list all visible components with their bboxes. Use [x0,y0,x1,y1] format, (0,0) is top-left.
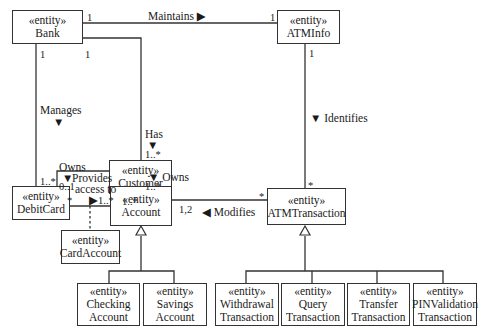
class-name-line1: Savings [157,298,193,311]
stereotype: «entity» [290,14,328,27]
identifies-mult-transaction: * [308,180,313,191]
provides-mult-debitcard: * [67,195,72,206]
has-line [83,38,141,160]
provides-direction-arrow-icon: ▶ [89,194,98,206]
stereotype: «entity» [360,285,398,298]
class-name-line1: Withdrawal [220,298,274,311]
class-name-line1: Checking [86,298,130,311]
stereotype: «entity» [228,285,266,298]
stereotype: «entity» [288,194,326,207]
identifies-label: ▼ Identifies [310,112,368,124]
class-name: ATMTransaction [267,207,345,220]
class-name-line1: Transfer [359,298,398,311]
maintains-mult-atminfo: 1 [270,12,275,23]
class-name-line2: Transaction [352,311,406,324]
account-subclass-branches [109,271,174,283]
class-atminfo: «entity» ATMInfo [277,10,340,44]
identifies-mult-atminfo: 1 [309,48,314,59]
class-cardaccount: «entity» CardAccount [61,230,120,264]
account-generalization-triangle [136,226,146,235]
owns-account-mult-account: 1..* [145,181,161,192]
class-name: Bank [35,27,59,40]
modifies-mult-transaction: * [259,191,264,202]
class-name-line2: Account [156,311,195,324]
class-account: «entity» Account [110,186,172,226]
uml-class-diagram: «entity» Bank «entity» ATMInfo «entity» … [0,0,487,335]
manages-mult-bank: 1 [40,49,45,60]
class-name: CardAccount [60,247,121,260]
transaction-subclass-branches [246,271,443,283]
class-transfer-transaction: «entity» Transfer Transaction [347,283,410,326]
manages-label: Manages [40,104,82,116]
modifies-label: ◀ Modifies [202,206,255,218]
class-atmtransaction: «entity» ATMTransaction [267,188,346,225]
stereotype: «entity» [29,14,67,27]
manages-mult-debitcard: 1..* [40,176,56,187]
has-mult-bank: 1 [85,49,90,60]
class-name: DebitCard [17,203,65,216]
maintains-mult-bank: 1 [87,12,92,23]
maintains-label: Maintains ▶ [148,10,206,22]
class-name-line2: Transaction [418,311,472,324]
stereotype: «entity» [426,285,464,298]
class-pinvalidation-transaction: «entity» PINValidation Transaction [413,283,477,326]
transaction-generalization-triangle [300,226,310,235]
stereotype: «entity» [72,234,110,247]
class-checking-account: «entity» Checking Account [77,283,140,326]
class-name-line1: Query [299,298,328,311]
owns-card-mult-customer: 1..* [122,196,138,207]
class-name-line1: PINValidation [412,298,478,311]
stereotype: «entity» [156,285,194,298]
manages-direction-arrow-icon: ▼ [53,116,64,128]
provides-mult-account: 1..* [98,195,114,206]
modifies-mult-account: 1,2 [179,204,192,215]
class-name: ATMInfo [287,27,330,40]
stereotype: «entity» [22,190,60,203]
stereotype: «entity» [90,285,128,298]
class-name-line2: Transaction [286,311,340,324]
stereotype: «entity» [294,285,332,298]
class-withdrawal-transaction: «entity» Withdrawal Transaction [215,283,279,326]
has-mult-customer: 1..* [145,149,161,160]
class-name-line2: Account [89,311,128,324]
class-query-transaction: «entity» Query Transaction [281,283,345,326]
class-name-line2: Transaction [220,311,274,324]
class-bank: «entity» Bank [12,10,83,44]
class-name: Account [122,206,161,219]
class-savings-account: «entity» Savings Account [143,283,207,326]
